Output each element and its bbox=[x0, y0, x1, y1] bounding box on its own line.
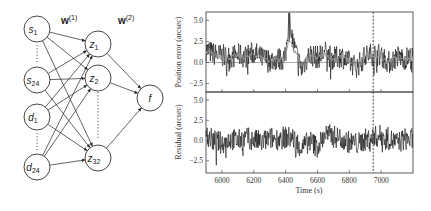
position-error-ytick-label: 2.5 bbox=[194, 37, 204, 46]
input-node-s1: s1 bbox=[24, 16, 50, 42]
residual-ylabel: Residual (arcsec) bbox=[174, 104, 183, 160]
residual-xtick-label: 6400 bbox=[278, 176, 293, 185]
time-xlabel: Time (s) bbox=[295, 186, 322, 195]
residual-ytick-label: −2.5 bbox=[189, 156, 203, 165]
edge-hid1-out bbox=[110, 83, 138, 94]
residual-ytick-label: 0.0 bbox=[194, 136, 204, 145]
position-error-ytick-label: −2.5 bbox=[189, 79, 203, 88]
position-error-ytick-label: 5.0 bbox=[194, 16, 204, 25]
edge-in0-hid2 bbox=[43, 41, 93, 146]
output-node-f: f bbox=[137, 85, 163, 111]
residual-ytick-label: 5.0 bbox=[194, 96, 204, 105]
position-error-series bbox=[206, 13, 413, 79]
residual-panel: −2.50.02.55.0600062006400660068007000 Re… bbox=[174, 92, 413, 195]
input-node-d1: d1 bbox=[24, 104, 50, 130]
edge-in3-hid2 bbox=[50, 160, 85, 165]
residual-xtick-label: 6000 bbox=[214, 176, 229, 185]
edge-in3-hid1 bbox=[44, 89, 90, 157]
residual-series bbox=[206, 124, 413, 165]
edge-hid2-out bbox=[107, 108, 142, 148]
edge-in0-hid0 bbox=[50, 32, 86, 41]
input-node-s24: s24 bbox=[24, 67, 50, 93]
position-error-panel: −2.50.02.55.0 Position error (arcsec) bbox=[174, 12, 413, 92]
position-error-line-0 bbox=[206, 13, 413, 79]
input-node-d24: d24 bbox=[24, 154, 50, 180]
residual-xtick-label: 6200 bbox=[246, 176, 261, 185]
residual-line-0 bbox=[206, 124, 413, 165]
weight-label-layer2: w(2) bbox=[117, 14, 134, 26]
figure: s1s24d1d24z1z2z32f w(1) w(2) −2.50.02.55… bbox=[0, 0, 431, 211]
position-error-ytick-label: 0.0 bbox=[194, 58, 204, 67]
residual-xtick-label: 6600 bbox=[310, 176, 325, 185]
hidden-node-z1: z1 bbox=[85, 31, 111, 57]
residual-xtick-label: 7000 bbox=[374, 176, 389, 185]
residual-xtick-label: 6800 bbox=[342, 176, 357, 185]
residual-ytick-label: 2.5 bbox=[194, 116, 204, 125]
position-error-ylabel: Position error (arcsec) bbox=[174, 16, 183, 87]
edge-in1-hid0 bbox=[48, 51, 87, 74]
edge-in3-hid0 bbox=[43, 56, 92, 156]
position-error-axis: −2.50.02.55.0 bbox=[189, 12, 413, 92]
neural-network-diagram: s1s24d1d24z1z2z32f w(1) w(2) bbox=[24, 14, 163, 180]
edge-in1-hid1 bbox=[50, 78, 85, 79]
edge-in2-hid2 bbox=[48, 124, 87, 150]
hidden-node-z32: z32 bbox=[85, 145, 111, 171]
weight-label-layer1: w(1) bbox=[60, 14, 77, 26]
hidden-node-z2: z2 bbox=[85, 65, 111, 91]
